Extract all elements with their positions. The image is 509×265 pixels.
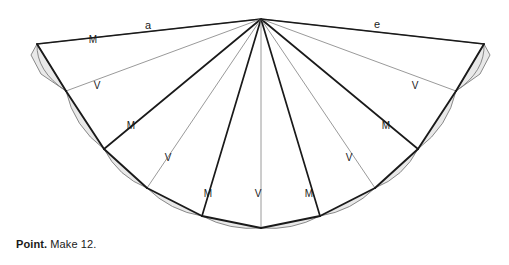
label-a: a xyxy=(145,19,152,31)
label-e: e xyxy=(374,18,380,30)
label-m-bottom-left: M xyxy=(204,188,212,199)
caption-rest: Make 12. xyxy=(47,238,96,250)
label-v-bottom-center: V xyxy=(255,188,262,199)
label-v-left-outer: V xyxy=(94,80,101,91)
label-m-top-left: M xyxy=(89,34,97,45)
figure-caption: Point. Make 12. xyxy=(16,238,96,250)
label-m-right-mid: M xyxy=(382,120,390,131)
label-v-right-outer: V xyxy=(412,80,419,91)
label-m-bottom-right: M xyxy=(305,188,313,199)
caption-lead: Point. xyxy=(16,238,47,250)
fan-crease-pattern-figure: aeMVVMMVVMVM xyxy=(0,0,509,265)
label-v-right-inner: V xyxy=(346,152,353,163)
label-m-left-mid: M xyxy=(127,120,135,131)
label-v-left-inner: V xyxy=(165,152,172,163)
